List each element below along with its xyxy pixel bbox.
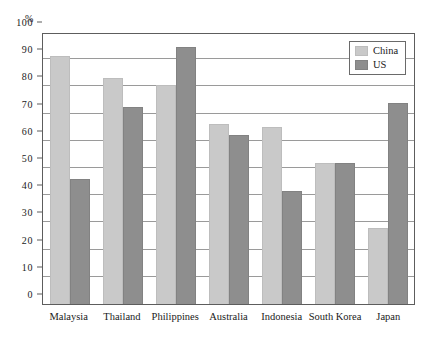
bar-group (43, 34, 96, 304)
legend-swatch-china (355, 46, 368, 56)
legend-label-us: US (373, 60, 386, 71)
x-axis-label-philippines: Philippines (149, 306, 202, 323)
x-axis-label-indonesia: Indonesia (255, 306, 308, 323)
y-axis-tick: 10 (22, 261, 42, 272)
legend-swatch-us (355, 60, 368, 70)
bar-us-japan (388, 103, 408, 304)
bar-us-australia (229, 135, 249, 304)
y-axis-tick: 100 (16, 17, 42, 28)
bar-us-philippines (176, 47, 196, 304)
y-axis-tick-label: 10 (22, 261, 37, 272)
bar-us-thailand (123, 107, 143, 304)
x-axis-label-japan: Japan (362, 306, 415, 323)
bar-group (96, 34, 149, 304)
bar-china-philippines (156, 85, 176, 304)
bar-us-malaysia (70, 179, 90, 304)
bar-china-south-korea (315, 163, 335, 304)
y-axis-tick: 20 (22, 234, 42, 245)
bar-us-south-korea (335, 163, 355, 304)
legend-item-us[interactable]: US (355, 60, 398, 71)
y-axis-tick-label: 40 (22, 180, 37, 191)
y-axis-tick: 70 (22, 98, 42, 109)
x-axis-label-australia: Australia (202, 306, 255, 323)
y-axis-tick: 90 (22, 44, 42, 55)
bar-china-japan (368, 228, 388, 304)
y-axis-tick-label: 70 (22, 98, 37, 109)
y-axis-tick-label: 60 (22, 125, 37, 136)
x-axis-label-malaysia: Malaysia (42, 306, 95, 323)
bar-group (149, 34, 202, 304)
x-axis-label-south-korea: South Korea (308, 306, 361, 323)
y-axis-tick-label: 20 (22, 234, 37, 245)
bar-group (202, 34, 255, 304)
bar-china-malaysia (50, 56, 70, 304)
bar-us-indonesia (282, 191, 302, 304)
y-axis-tick-mark (37, 22, 42, 23)
y-axis-tick-label: 90 (22, 44, 37, 55)
y-axis-tick-label: 30 (22, 207, 37, 218)
y-axis: 0102030405060708090100 (0, 33, 42, 305)
y-axis-tick: 80 (22, 71, 42, 82)
legend-item-china[interactable]: China (355, 46, 398, 57)
y-axis-tick: 60 (22, 125, 42, 136)
x-axis: MalaysiaThailandPhilippinesAustraliaIndo… (42, 306, 415, 323)
bar-china-indonesia (262, 127, 282, 304)
x-axis-label-thailand: Thailand (95, 306, 148, 323)
y-axis-tick-label: 0 (27, 289, 37, 300)
chart-legend: ChinaUS (349, 41, 406, 75)
y-axis-tick: 40 (22, 180, 42, 191)
y-axis-tick: 50 (22, 153, 42, 164)
bar-group (255, 34, 308, 304)
legend-label-china: China (373, 46, 398, 57)
bar-chart: % 0102030405060708090100 MalaysiaThailan… (0, 0, 432, 343)
bar-china-thailand (103, 78, 123, 304)
y-axis-tick-label: 100 (16, 17, 37, 28)
bar-china-australia (209, 124, 229, 304)
y-axis-tick: 0 (27, 289, 42, 300)
y-axis-tick-label: 50 (22, 153, 37, 164)
y-axis-tick: 30 (22, 207, 42, 218)
y-axis-tick-label: 80 (22, 71, 37, 82)
